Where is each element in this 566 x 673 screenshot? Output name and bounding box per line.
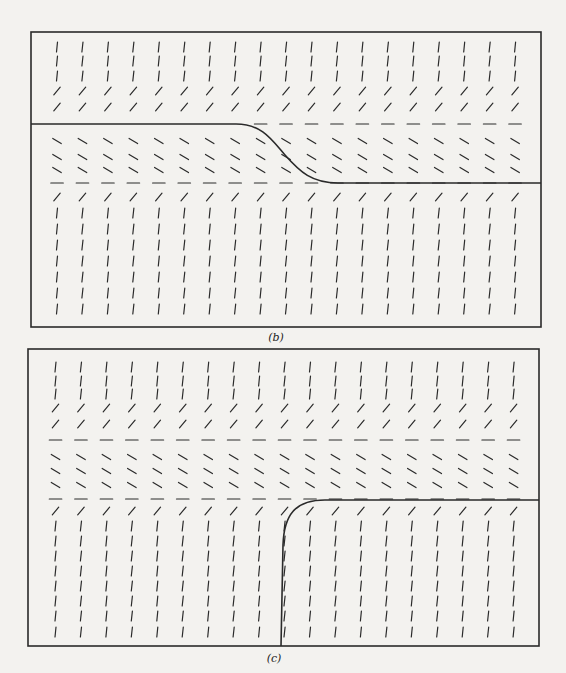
slope-segment <box>55 551 56 561</box>
slope-segment <box>153 468 161 473</box>
slope-segment <box>485 404 492 412</box>
slope-segment <box>513 521 514 531</box>
slope-segment <box>158 272 159 282</box>
slope-segment <box>437 376 438 386</box>
slope-segment <box>128 468 137 473</box>
slope-segment <box>255 468 263 473</box>
slope-segment <box>209 224 210 234</box>
slope-segment <box>464 42 465 52</box>
slope-segment <box>410 103 416 111</box>
slope-segment <box>232 193 239 201</box>
slope-segment <box>235 71 236 81</box>
slope-segment <box>255 482 263 487</box>
slope-segment <box>360 521 361 531</box>
slope-segment <box>52 420 58 428</box>
slope-segment <box>156 103 162 111</box>
slope-segment <box>360 596 361 606</box>
slope-segment <box>357 468 365 473</box>
slope-segment <box>209 272 210 282</box>
slope-segment <box>184 240 185 250</box>
slope-segment <box>130 103 137 111</box>
slope-segment <box>484 482 493 487</box>
slope-segment <box>385 103 392 111</box>
slope-segment <box>106 389 107 399</box>
slope-segment <box>307 167 315 172</box>
slope-segment <box>387 208 388 218</box>
slope-segment <box>133 272 134 282</box>
slope-segment <box>333 167 342 172</box>
slope-segment <box>358 154 366 159</box>
slope-segment <box>55 389 56 399</box>
slope-segment <box>208 566 209 576</box>
slope-segment <box>80 521 81 531</box>
slope-segment <box>513 551 514 561</box>
slope-segment <box>103 420 109 428</box>
slope-segment <box>230 420 237 428</box>
slope-segment <box>181 103 188 111</box>
slope-segment <box>360 536 361 546</box>
slope-segment <box>332 404 339 412</box>
slope-segment <box>131 376 132 386</box>
slope-segment <box>184 224 185 234</box>
slope-segment <box>131 596 132 606</box>
slope-segment <box>153 454 161 459</box>
slope-segment <box>157 389 158 399</box>
slope-segment <box>387 272 388 282</box>
slope-segment <box>409 404 415 412</box>
slope-segment <box>311 240 312 250</box>
slope-segment <box>311 304 312 314</box>
slope-segment <box>438 256 439 266</box>
slope-segment <box>386 362 387 372</box>
slope-segment <box>131 536 132 546</box>
slope-segment <box>286 71 287 81</box>
slope-segment <box>408 454 416 459</box>
slope-segment <box>80 627 81 637</box>
slope-segment <box>513 566 514 576</box>
slope-segment <box>233 566 234 576</box>
slope-segment <box>256 420 262 428</box>
slope-segment <box>133 304 134 314</box>
slope-segment <box>413 256 414 266</box>
slope-segment <box>307 404 313 412</box>
slope-segment <box>513 627 514 637</box>
slope-segment <box>485 507 492 515</box>
slope-segment <box>157 362 158 372</box>
slope-segment <box>485 167 494 172</box>
slope-segment <box>462 521 463 531</box>
slope-segment <box>229 482 238 487</box>
slope-segment <box>184 208 185 218</box>
slope-segment <box>232 87 239 95</box>
slope-segment <box>80 566 81 576</box>
slope-segment <box>158 304 159 314</box>
slope-segment <box>311 71 312 81</box>
slope-segment <box>515 208 516 218</box>
slope-segment <box>260 272 261 282</box>
slope-segment <box>259 627 260 637</box>
slope-segment <box>489 71 490 81</box>
slope-segment <box>207 103 213 111</box>
slope-segment <box>55 581 56 591</box>
slope-segment <box>307 138 315 143</box>
slope-segment <box>207 87 213 95</box>
slope-segment <box>437 596 438 606</box>
slope-segment <box>54 193 60 201</box>
slope-segment <box>437 551 438 561</box>
slope-segment <box>53 167 61 172</box>
slope-segment <box>231 167 240 172</box>
slope-segment <box>384 138 393 143</box>
slope-segment <box>409 507 415 515</box>
slope-segment <box>332 507 339 515</box>
slope-segment <box>107 42 108 52</box>
slope-segment <box>362 56 363 66</box>
slope-segment <box>488 362 489 372</box>
slope-segment <box>233 627 234 637</box>
slope-segment <box>335 536 336 546</box>
slope-segment <box>57 240 58 250</box>
slope-segment <box>411 627 412 637</box>
slope-segment <box>335 581 336 591</box>
slope-segment <box>182 536 183 546</box>
slope-segment <box>384 154 393 159</box>
slope-segment <box>106 566 107 576</box>
slope-segment <box>310 536 311 546</box>
slope-segment <box>331 482 340 487</box>
